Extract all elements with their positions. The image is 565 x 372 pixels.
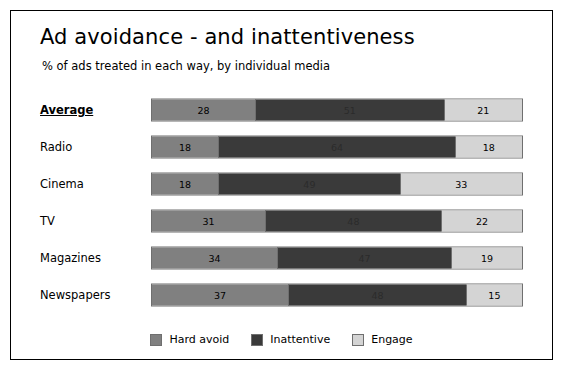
bar-segment-inattentive: 51 — [255, 99, 444, 120]
bar-segment-inattentive: 49 — [218, 173, 399, 194]
bar-track: 314822 — [151, 209, 523, 232]
bar-segment-engage: 22 — [441, 210, 522, 231]
bar-segment-hard-avoid: 31 — [152, 210, 265, 231]
bar-segment-inattentive: 64 — [218, 136, 455, 157]
bar-segment-inattentive: 48 — [288, 284, 466, 305]
bar-track: 186418 — [151, 135, 523, 158]
chart-legend: Hard avoidInattentiveEngage — [11, 333, 552, 346]
bar-track: 344719 — [151, 246, 523, 269]
legend-swatch-icon — [352, 334, 364, 346]
bar-segment-hard-avoid: 34 — [152, 247, 277, 268]
bar-segment-hard-avoid: 28 — [152, 99, 255, 120]
legend-item: Engage — [352, 333, 412, 346]
bar-segment-inattentive: 48 — [265, 210, 441, 231]
bar-row: Average285121 — [11, 91, 552, 128]
bar-track: 374815 — [151, 283, 523, 306]
bar-segment-hard-avoid: 18 — [152, 136, 218, 157]
category-label: Radio — [11, 140, 139, 154]
category-label: Average — [11, 103, 139, 117]
bar-segment-hard-avoid: 18 — [152, 173, 218, 194]
category-label: Newspapers — [11, 288, 139, 302]
legend-label: Inattentive — [270, 333, 330, 346]
bar-row: Magazines344719 — [11, 239, 552, 276]
category-label: Cinema — [11, 177, 139, 191]
bar-segment-engage: 15 — [466, 284, 522, 305]
bar-row: TV314822 — [11, 202, 552, 239]
chart-subtitle: % of ads treated in each way, by individ… — [42, 59, 330, 73]
bar-segment-engage: 18 — [455, 136, 522, 157]
legend-label: Engage — [371, 333, 412, 346]
bar-track: 285121 — [151, 98, 523, 121]
chart-frame: Ad avoidance - and inattentiveness % of … — [10, 10, 553, 360]
legend-item: Inattentive — [251, 333, 330, 346]
chart-title: Ad avoidance - and inattentiveness — [40, 25, 415, 49]
bar-track: 184933 — [151, 172, 523, 195]
bar-segment-engage: 21 — [444, 99, 522, 120]
bar-segment-engage: 33 — [400, 173, 522, 194]
category-label: Magazines — [11, 251, 139, 265]
bar-row: Cinema184933 — [11, 165, 552, 202]
bar-row: Radio186418 — [11, 128, 552, 165]
bar-segment-hard-avoid: 37 — [152, 284, 288, 305]
legend-item: Hard avoid — [150, 333, 229, 346]
category-label: TV — [11, 214, 139, 228]
stacked-bar-plot: Average285121Radio186418Cinema184933TV31… — [11, 91, 552, 313]
bar-segment-engage: 19 — [451, 247, 522, 268]
bar-row: Newspapers374815 — [11, 276, 552, 313]
legend-label: Hard avoid — [169, 333, 229, 346]
legend-swatch-icon — [251, 334, 263, 346]
bar-segment-inattentive: 47 — [277, 247, 451, 268]
legend-swatch-icon — [150, 334, 162, 346]
